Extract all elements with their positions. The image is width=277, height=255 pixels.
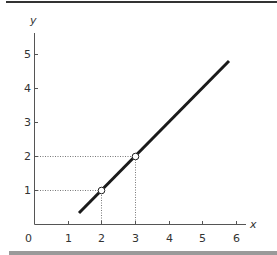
x-tick-label-3: 3	[132, 232, 139, 245]
y-tick-label-4: 4	[24, 82, 31, 95]
line-chart: y x 5 4 3 2 1 0 1 2 3 4 5 6	[0, 0, 277, 255]
y-tick-label-2: 2	[24, 150, 31, 163]
point-2-1	[98, 187, 105, 194]
bottom-rule	[9, 251, 277, 255]
y-tick-label-5: 5	[24, 48, 31, 61]
y-ticks	[35, 55, 39, 191]
x-tick-label-5: 5	[199, 232, 206, 245]
y-axis-label: y	[29, 14, 37, 27]
x-ticks	[69, 221, 237, 225]
x-axis-label: x	[249, 218, 257, 231]
x-tick-label-2: 2	[98, 232, 105, 245]
y-tick-label-1: 1	[24, 184, 31, 197]
dotted-guides	[35, 157, 136, 225]
x-tick-label-1: 1	[65, 232, 72, 245]
point-3-2	[132, 153, 139, 160]
y-tick-label-3: 3	[24, 116, 31, 129]
x-tick-label-6: 6	[233, 232, 240, 245]
origin-label: 0	[25, 232, 32, 245]
x-tick-label-4: 4	[166, 232, 173, 245]
